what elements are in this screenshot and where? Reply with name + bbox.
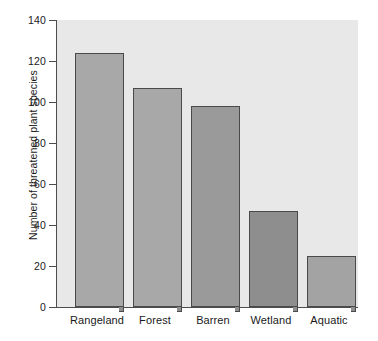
bar-rangeland bbox=[75, 53, 124, 312]
bar-face-forest bbox=[133, 88, 182, 307]
y-tick-60 bbox=[49, 184, 57, 185]
bar-barren bbox=[191, 106, 240, 312]
y-tick-20 bbox=[49, 266, 57, 267]
bar-face-aquatic bbox=[307, 256, 356, 307]
y-tick-40 bbox=[49, 225, 57, 226]
chart-figure: Number of threatened plant species 02040… bbox=[0, 0, 378, 341]
y-tick-label-120: 120 bbox=[6, 55, 46, 67]
bar-wetland bbox=[249, 211, 298, 312]
y-tick-label-100: 100 bbox=[6, 96, 46, 108]
bar-aquatic bbox=[307, 256, 356, 312]
x-label-barren: Barren bbox=[184, 314, 242, 326]
x-label-forest: Forest bbox=[126, 314, 184, 326]
y-tick-label-80: 80 bbox=[6, 137, 46, 149]
bar-face-wetland bbox=[249, 211, 298, 307]
y-tick-label-0: 0 bbox=[6, 301, 46, 313]
y-tick-80 bbox=[49, 143, 57, 144]
y-tick-100 bbox=[49, 102, 57, 103]
y-tick-label-60: 60 bbox=[6, 178, 46, 190]
y-axis-line bbox=[56, 20, 57, 308]
y-tick-label-140: 140 bbox=[6, 14, 46, 26]
x-label-aquatic: Aquatic bbox=[300, 314, 358, 326]
y-tick-140 bbox=[49, 20, 57, 21]
bar-face-barren bbox=[191, 106, 240, 307]
bar-forest bbox=[133, 88, 182, 312]
x-label-rangeland: Rangeland bbox=[68, 314, 126, 326]
y-tick-label-20: 20 bbox=[6, 260, 46, 272]
x-label-wetland: Wetland bbox=[242, 314, 300, 326]
y-tick-label-40: 40 bbox=[6, 219, 46, 231]
y-tick-120 bbox=[49, 61, 57, 62]
y-tick-0 bbox=[49, 307, 57, 308]
bar-face-rangeland bbox=[75, 53, 124, 307]
